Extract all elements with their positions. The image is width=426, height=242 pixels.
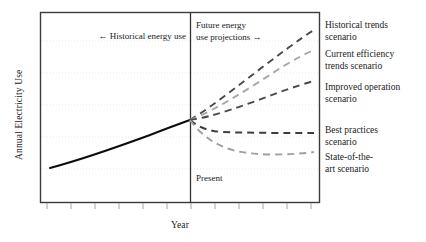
legend-item-historical-trends-line2: scenario bbox=[325, 32, 357, 42]
legend: Historical trends scenario Current effic… bbox=[325, 20, 400, 174]
legend-item-current-efficiency-line2: trends scenario bbox=[325, 61, 382, 71]
legend-item-current-efficiency-line1: Current efficiency bbox=[325, 49, 394, 59]
legend-item-improved-operation-line2: scenario bbox=[325, 94, 357, 104]
series-historical-energy-use bbox=[50, 120, 190, 168]
x-axis-label: Year bbox=[171, 220, 190, 230]
future-projections-annotation-line2: use projections → bbox=[196, 32, 262, 42]
series-current-efficiency-trends-scenario bbox=[190, 50, 314, 120]
legend-item-best-practices-line2: scenario bbox=[325, 137, 357, 147]
chart-canvas: Annual Electricity Use Year ← Historical… bbox=[0, 0, 426, 242]
series-improved-operation-scenario bbox=[190, 81, 314, 120]
historical-energy-use-annotation: ← Historical energy use bbox=[98, 31, 186, 41]
present-label: Present bbox=[196, 173, 223, 183]
legend-item-historical-trends-line1: Historical trends bbox=[325, 20, 388, 30]
legend-item-state-of-the-art-line1: State-of-the- bbox=[325, 152, 373, 162]
series-historical-trends-scenario bbox=[190, 30, 314, 120]
x-axis-ticks bbox=[47, 203, 311, 209]
legend-item-state-of-the-art-line2: art scenario bbox=[325, 164, 369, 174]
gridlines bbox=[41, 41, 319, 169]
chart-figure: Annual Electricity Use Year ← Historical… bbox=[0, 0, 426, 242]
series-best-practices-scenario bbox=[190, 120, 314, 133]
legend-item-improved-operation-line1: Improved operation bbox=[325, 82, 400, 92]
future-projections-annotation-line1: Future energy bbox=[196, 20, 247, 30]
y-axis-label: Annual Electricity Use bbox=[14, 70, 24, 160]
legend-item-best-practices-line1: Best practices bbox=[325, 125, 378, 135]
